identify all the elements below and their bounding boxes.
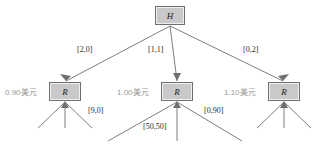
- price-label-left: 0.90美元: [5, 86, 37, 97]
- node-hotel-root-inner: H: [156, 7, 184, 24]
- edge-label-left: [2,0]: [77, 45, 92, 54]
- node-hotel-root-label: H: [167, 11, 174, 21]
- arrowhead-root-to-left: [60, 74, 71, 81]
- node-hotel-root[interactable]: H: [155, 6, 185, 25]
- node-restaurant-middle[interactable]: R: [161, 82, 193, 101]
- node-restaurant-right[interactable]: R: [268, 82, 300, 101]
- price-label-middle: 1.00美元: [117, 86, 149, 97]
- edge-root-to-right: [170, 26, 283, 81]
- node-restaurant-left-inner: R: [50, 83, 80, 100]
- leaf-edge-right-1: [257, 102, 284, 128]
- price-label-right: 1.10美元: [224, 86, 256, 97]
- edge-root-to-middle: [170, 26, 177, 81]
- node-restaurant-left[interactable]: R: [49, 82, 81, 101]
- edge-label-middle: [1,1]: [148, 45, 163, 54]
- sub-edge-label-left: [9,0]: [88, 106, 103, 115]
- arrowhead-root-to-middle: [173, 73, 181, 81]
- arrowhead-middle-leaf: [173, 101, 181, 108]
- node-restaurant-left-label: R: [62, 87, 68, 97]
- game-tree-diagram: H R R R 0.90美元 1.00美元 1.10美元 [2,0] [1,1]…: [0, 0, 315, 149]
- leaf-edge-right-3: [284, 102, 311, 128]
- arrowhead-root-to-right: [278, 74, 289, 81]
- sub-edge-label-right: [0,90]: [204, 106, 223, 115]
- node-restaurant-right-label: R: [281, 87, 287, 97]
- node-restaurant-middle-inner: R: [162, 83, 192, 100]
- node-restaurant-middle-label: R: [174, 87, 180, 97]
- node-restaurant-right-inner: R: [269, 83, 299, 100]
- edge-label-right: [0,2]: [243, 45, 258, 54]
- leaf-edge-left-1: [38, 102, 65, 128]
- sub-edge-label-middle: [50,50]: [143, 122, 166, 131]
